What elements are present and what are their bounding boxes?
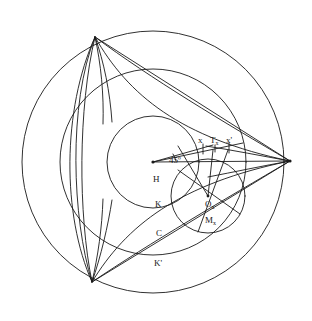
label-tangent-point-Tx: Tx (210, 136, 219, 145)
ray-center-through-Tx (153, 143, 243, 162)
center-point-marker (151, 160, 154, 163)
Ox-point-marker (207, 195, 210, 198)
arc-left-sweep (70, 37, 95, 282)
label-M-subscript: x (213, 220, 216, 226)
label-curve-C: C (156, 229, 162, 238)
geometry-svg (0, 0, 312, 321)
cusp-lens-bottom-b (92, 199, 103, 282)
angle-label-45: 45º (169, 156, 181, 165)
label-point-x-prime: x' (226, 136, 232, 145)
label-center-Ox: Ox (205, 200, 215, 209)
right-cusp-marker (288, 159, 291, 162)
label-T-subscript: x (216, 140, 219, 146)
line-top-cusp-to-cusp-right (95, 37, 290, 161)
diagram-canvas: 45º x Tx x' H K C K' Ox Mx (0, 0, 312, 321)
label-T: T (210, 135, 216, 145)
label-circle-Mx: Mx (205, 216, 216, 225)
label-circle-K: K (155, 200, 162, 209)
segment-Ox-to-Tx (208, 150, 213, 196)
label-O-subscript: x (212, 204, 215, 210)
label-M: M (205, 215, 213, 225)
label-curve-H: H (153, 175, 160, 184)
label-point-x: x (198, 136, 203, 145)
label-circle-K-prime: K' (154, 259, 162, 268)
degree-symbol: º (178, 155, 181, 165)
label-O: O (205, 199, 212, 209)
